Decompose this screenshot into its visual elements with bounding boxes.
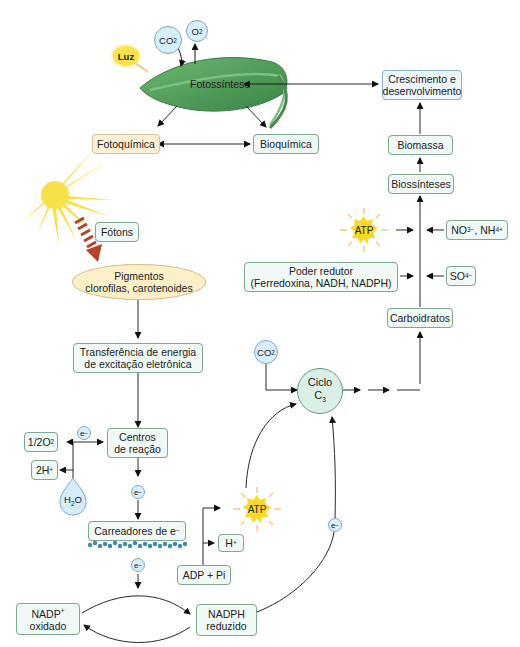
transferencia-line1: Transferência de energia (80, 346, 196, 359)
carreadores-box: Carreadores de e− (88, 521, 186, 541)
centros-line2: de reação (114, 443, 161, 456)
crescimento-box: Crescimento e desenvolvimento (382, 70, 462, 100)
fotoquimica-box: Fotoquímica (92, 134, 160, 154)
atp-label: ATP (350, 216, 378, 244)
crescimento-line2: desenvolvimento (383, 85, 462, 98)
membrane-dots (88, 541, 187, 548)
co2-input-bubble: CO2 (154, 26, 182, 54)
luz-light-icon: Luz (113, 46, 139, 66)
nitrogen-box: NO3−, NH4+ (446, 220, 508, 240)
sulfate-box: SO4− (446, 266, 476, 286)
transferencia-box: Transferência de energia de excitação el… (73, 343, 203, 373)
o2-output-bubble: O2 (186, 20, 208, 42)
nadph-line1: NADPH (208, 608, 245, 621)
half-o2-box: 1/2O2 (24, 432, 58, 452)
water-label: H2O (61, 494, 85, 507)
electron-bubble-2: e− (131, 485, 145, 499)
pigmentos-line2: clorofilas, carotenoides (85, 282, 192, 295)
transferencia-line2: de excitação eletrônica (84, 358, 191, 371)
poder-line1: Poder redutor (289, 265, 353, 278)
pigmentos-line1: Pigmentos (114, 270, 164, 283)
carboidratos-box: Carboidratos (387, 308, 453, 328)
centros-reacao-box: Centros de reação (107, 428, 168, 458)
biossinteses-box: Biossínteses (388, 174, 454, 194)
pigmentos-ellipse: Pigmentos clorofilas, carotenoides (72, 264, 206, 300)
nadph-reduzido-box: NADPH reduzido (196, 604, 257, 636)
fotossintese-label: Fotossíntese (190, 78, 250, 90)
crescimento-line1: Crescimento e (388, 73, 456, 86)
adp-pi-box: ADP + Pi (177, 565, 231, 585)
ciclo-line1: Ciclo (308, 376, 332, 389)
electron-bubble-3: e− (131, 558, 145, 572)
electron-bubble-calvin: e− (328, 518, 342, 532)
photon-arrow-icon (75, 218, 96, 247)
fotons-box: Fótons (95, 222, 139, 242)
two-h-plus-box: 2H+ (31, 460, 58, 480)
nadp-line2: oxidado (30, 620, 67, 633)
nadp-line1: NADP+ (32, 605, 65, 620)
poder-line2: (Ferredoxina, NADH, NADPH) (250, 277, 391, 290)
atp-label-bottom: ATP (243, 495, 271, 523)
bioquimica-box: Bioquímica (253, 134, 319, 154)
ciclo-line2: C3 (314, 389, 326, 406)
poder-redutor-box: Poder redutor (Ferredoxina, NADH, NADPH) (244, 262, 398, 292)
electron-bubble: e− (77, 426, 91, 440)
co2-calvin-bubble: CO2 (254, 340, 278, 364)
nadph-line2: reduzido (206, 620, 246, 633)
h-plus-box: H+ (218, 534, 244, 552)
centros-line1: Centros (119, 431, 156, 444)
biomassa-box: Biomassa (388, 135, 453, 155)
leaf-icon (140, 58, 287, 128)
nadp-oxidado-box: NADP+ oxidado (16, 603, 80, 635)
ciclo-c3-circle: Ciclo C3 (297, 368, 343, 414)
